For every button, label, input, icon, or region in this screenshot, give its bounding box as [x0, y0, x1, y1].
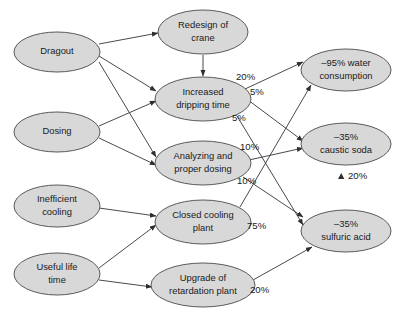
edge-dragout-to-dripping — [99, 56, 156, 91]
edge-usefullife-to-closedcooling — [99, 225, 156, 268]
edge-label-analyzing-to-sulfuric: 10% — [237, 175, 257, 186]
node-shape-usefullife — [14, 253, 100, 295]
edge-label-dripping-to-caustic: 5% — [250, 86, 264, 97]
node-inefficient[interactable]: Inefficientcooling — [14, 185, 100, 227]
edge-upgrade-to-sulfuric — [253, 247, 312, 280]
diagram-canvas: DragoutDosingInefficientcoolingUseful li… — [0, 0, 397, 319]
edge-label-upgrade-to-sulfuric: 20% — [250, 284, 270, 295]
node-shape-sulfuric — [301, 210, 391, 252]
edge-dragout-to-redesign — [99, 33, 158, 44]
edge-dripping-to-caustic — [248, 100, 303, 141]
node-dosing[interactable]: Dosing — [14, 112, 100, 152]
node-usefullife[interactable]: Useful lifetime — [14, 253, 100, 295]
edge-inefficient-to-closedcooling — [99, 208, 156, 216]
annotations-layer: 20% — [338, 170, 368, 181]
edge-usefullife-to-upgrade — [99, 280, 152, 287]
node-sulfuric[interactable]: –35%sulfuric acid — [301, 210, 391, 252]
node-water[interactable]: –95% waterconsumption — [301, 49, 391, 91]
node-upgrade[interactable]: Upgrade ofretardation plant — [151, 263, 255, 307]
node-caustic[interactable]: –35%caustic soda — [301, 123, 391, 165]
node-shape-upgrade — [151, 263, 255, 307]
node-shape-dragout — [14, 32, 100, 72]
node-shape-water — [301, 49, 391, 91]
annotation-label-caustic-sulfuric-note: 20% — [348, 170, 368, 181]
node-shape-inefficient — [14, 185, 100, 227]
edge-label-analyzing-to-caustic: 10% — [240, 141, 260, 152]
node-closedcooling[interactable]: Closed coolingplant — [155, 200, 251, 244]
node-shape-closedcooling — [155, 200, 251, 244]
node-shape-redesign — [158, 10, 248, 54]
edge-label-closedcooling-to-water: 75% — [247, 220, 267, 231]
edge-dosing-to-dripping — [99, 101, 156, 126]
nodes-layer: DragoutDosingInefficientcoolingUseful li… — [14, 10, 391, 307]
node-shape-caustic — [301, 123, 391, 165]
influence-diagram: DragoutDosingInefficientcoolingUseful li… — [0, 0, 397, 319]
up-arrow-icon — [338, 173, 344, 179]
node-shape-dosing — [14, 112, 100, 152]
edge-dragout-to-analyzing — [99, 62, 156, 157]
node-redesign[interactable]: Redesign ofcrane — [158, 10, 248, 54]
node-dragout[interactable]: Dragout — [14, 32, 100, 72]
edge-label-dripping-to-sulfuric: 5% — [232, 112, 246, 123]
edge-label-dripping-to-water: 20% — [236, 71, 256, 82]
